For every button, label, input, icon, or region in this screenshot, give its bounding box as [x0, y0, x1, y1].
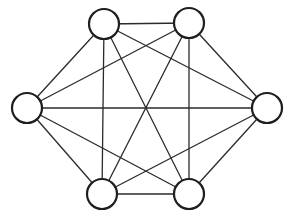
edge-top-left-to-left	[27, 24, 104, 108]
edge-top-left-to-bottom-right	[104, 24, 189, 194]
node-top-left	[89, 9, 119, 39]
node-top-right	[174, 8, 204, 38]
edge-top-right-to-right	[189, 23, 267, 108]
complete-graph-diagram	[0, 0, 290, 215]
edge-top-left-to-bottom-left	[102, 24, 104, 194]
edge-right-to-bottom-right	[189, 108, 267, 194]
node-left	[12, 93, 42, 123]
node-bottom-right	[174, 179, 204, 209]
edge-group	[27, 23, 267, 194]
edge-left-to-bottom-left	[27, 108, 102, 194]
node-bottom-left	[87, 179, 117, 209]
node-right	[252, 93, 282, 123]
